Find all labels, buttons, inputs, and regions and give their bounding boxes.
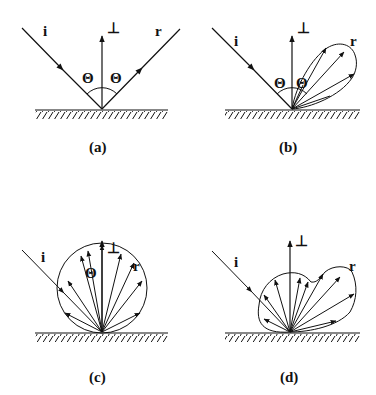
normal-label: ⊥ [297,20,310,36]
caption-a: (a) [89,139,107,156]
surface-hatch [225,111,360,119]
reflected-ray [102,29,180,109]
caption-d: (d) [280,369,298,386]
reflection-diagram: i r ⊥ Θ Θ (a) i r ⊥ Θ Θ (b) [0,0,376,395]
reflected-label: r [155,23,162,39]
angle-label-left: Θ [274,75,286,91]
panel-c: i r ⊥ Θ (c) [22,240,168,386]
reflected-label: r [349,258,356,274]
angle-label-left: Θ [82,70,94,86]
angle-label-right: Θ [296,75,308,91]
incident-label: i [234,33,238,49]
panel-a: i r ⊥ Θ Θ (a) [22,20,180,156]
surface-hatch [35,111,168,119]
incident-label: i [41,249,45,265]
diffuse-ray [264,295,290,332]
surface-hatch [35,334,168,342]
incident-ray [212,28,292,109]
diffuse-ray [290,282,308,332]
incident-ray [22,28,102,109]
panel-b: i r ⊥ Θ Θ (b) [212,20,360,156]
incident-label: i [43,23,47,39]
glossy-ray [290,321,336,332]
reflected-label: r [133,258,140,274]
surface-hatch [225,334,360,342]
normal-label: ⊥ [295,233,308,249]
incident-label: i [234,254,238,270]
normal-label: ⊥ [107,240,120,256]
angle-label-right: Θ [110,70,122,86]
glossy-ray [290,294,354,332]
caption-c: (c) [89,369,106,386]
diffuse-ray [68,281,102,332]
diffuse-ray [264,319,290,332]
normal-label: ⊥ [107,20,120,36]
caption-b: (b) [279,139,297,156]
angle-label: Θ [85,265,97,281]
reflected-label: r [350,33,357,49]
panel-d: i r ⊥ (d) [212,233,360,386]
